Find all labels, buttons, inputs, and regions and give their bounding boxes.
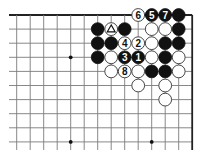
black-stone-7: 7: [159, 9, 172, 22]
white-stone: [159, 23, 172, 36]
white-stone: [145, 23, 158, 36]
move-number-label: 1: [135, 52, 141, 63]
black-stone: [91, 23, 104, 36]
white-stone-icon: [159, 93, 172, 106]
black-stone: [172, 37, 185, 50]
black-stone: [118, 23, 131, 36]
black-stone-icon: [172, 37, 185, 50]
black-stone: [105, 37, 118, 50]
star-point-icon: [69, 140, 73, 144]
black-stone: [159, 65, 172, 78]
white-stone-icon: [145, 37, 158, 50]
star-point-icon: [150, 140, 154, 144]
move-number-label: 6: [135, 10, 141, 21]
white-stone: [145, 51, 158, 64]
white-stone-icon: [145, 23, 158, 36]
black-stone: [172, 23, 185, 36]
white-stone-icon: [105, 65, 118, 78]
black-stone-icon: [91, 37, 104, 50]
white-stone-2: 2: [132, 37, 145, 50]
black-stone-icon: [145, 65, 158, 78]
move-number-label: 5: [149, 10, 155, 21]
white-stone-4: 4: [118, 37, 131, 50]
black-stone-icon: [105, 37, 118, 50]
white-stone-icon: [132, 79, 145, 92]
black-stone-5: 5: [145, 9, 158, 22]
black-stone-icon: [91, 23, 104, 36]
white-stone: [132, 79, 145, 92]
white-stone-6: 6: [132, 9, 145, 22]
white-stone-icon: [105, 51, 118, 64]
black-stone-icon: [159, 51, 172, 64]
black-stone-icon: [159, 37, 172, 50]
star-point-icon: [69, 55, 73, 59]
move-number-label: 3: [122, 52, 128, 63]
white-stone-icon: [172, 51, 185, 64]
black-stone-icon: [118, 23, 131, 36]
white-stone: [132, 65, 145, 78]
white-stone: [105, 51, 118, 64]
black-stone-3: 3: [118, 51, 131, 64]
white-stone: [172, 65, 185, 78]
black-stone-1: 1: [132, 51, 145, 64]
black-stone-icon: [172, 23, 185, 36]
move-number-label: 7: [162, 10, 168, 21]
white-stone-icon: [159, 79, 172, 92]
white-stone: [159, 93, 172, 106]
black-stone-icon: [172, 9, 185, 22]
white-stone: [105, 23, 118, 36]
white-stone: [105, 65, 118, 78]
black-stone: [91, 37, 104, 50]
white-stone-8: 8: [118, 65, 131, 78]
white-stone-icon: [172, 65, 185, 78]
go-board-diagram: 42318657: [0, 0, 202, 159]
black-stone: [172, 9, 185, 22]
move-number-label: 8: [122, 66, 128, 77]
white-stone: [145, 37, 158, 50]
move-number-label: 4: [122, 38, 128, 49]
white-stone: [172, 51, 185, 64]
black-stone: [159, 51, 172, 64]
white-stone: [159, 79, 172, 92]
black-stone-icon: [91, 51, 104, 64]
black-stone: [91, 51, 104, 64]
black-stone: [159, 37, 172, 50]
white-stone-icon: [145, 51, 158, 64]
white-stone-icon: [132, 65, 145, 78]
white-stone-icon: [159, 23, 172, 36]
black-stone: [145, 65, 158, 78]
move-number-label: 2: [135, 38, 141, 49]
black-stone-icon: [159, 65, 172, 78]
